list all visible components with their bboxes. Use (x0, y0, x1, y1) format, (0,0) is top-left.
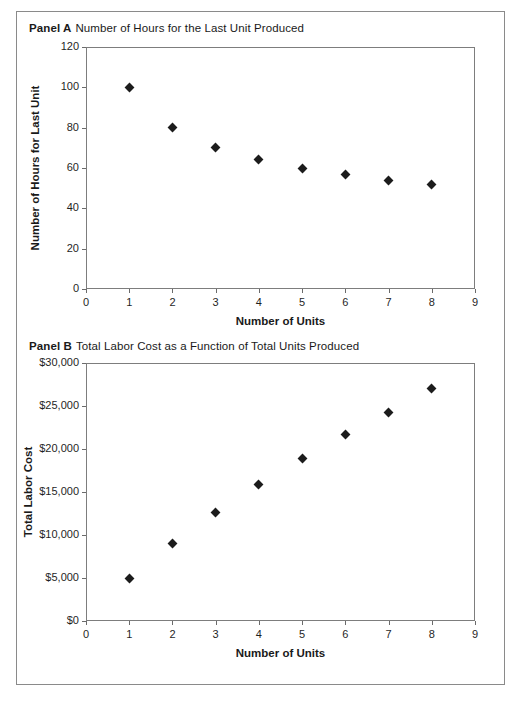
y-tick-label: 0 (73, 282, 79, 294)
x-tick-mark (302, 621, 303, 625)
panel-b-plot-area (86, 363, 475, 621)
panel-a-heading: Panel ANumber of Hours for the Last Unit… (29, 22, 304, 34)
y-tick-mark (82, 492, 86, 493)
y-tick-mark (82, 128, 86, 129)
x-tick-label: 2 (157, 628, 187, 640)
x-tick-mark (259, 289, 260, 293)
y-tick-label: 100 (61, 80, 79, 92)
x-tick-mark (389, 621, 390, 625)
panel-a-x-axis-title: Number of Units (86, 315, 475, 327)
y-tick-label: $0 (67, 614, 79, 626)
y-tick-label: 80 (67, 121, 79, 133)
panel-b-x-axis-title: Number of Units (86, 647, 475, 659)
x-tick-label: 7 (374, 628, 404, 640)
y-tick-mark (82, 363, 86, 364)
x-tick-label: 4 (244, 296, 274, 308)
x-tick-mark (389, 289, 390, 293)
x-tick-label: 0 (71, 296, 101, 308)
x-tick-mark (172, 289, 173, 293)
x-tick-mark (86, 289, 87, 293)
y-tick-label: $15,000 (39, 485, 79, 497)
y-tick-label: $20,000 (39, 442, 79, 454)
x-tick-label: 3 (201, 296, 231, 308)
panel-b-label: Panel B (29, 340, 72, 352)
panel-b-y-axis-title: Total Labor Cost (22, 363, 34, 621)
x-tick-label: 5 (287, 296, 317, 308)
x-tick-label: 8 (417, 296, 447, 308)
y-tick-mark (82, 406, 86, 407)
x-tick-label: 7 (374, 296, 404, 308)
y-tick-mark (82, 249, 86, 250)
x-tick-mark (432, 621, 433, 625)
y-tick-label: 60 (67, 161, 79, 173)
panel-a-plot-area (86, 47, 475, 289)
x-tick-label: 9 (460, 628, 490, 640)
x-tick-mark (475, 621, 476, 625)
x-tick-label: 4 (244, 628, 274, 640)
panel-b-heading: Panel BTotal Labor Cost as a Function of… (29, 340, 359, 352)
x-tick-label: 5 (287, 628, 317, 640)
panel-a-description: Number of Hours for the Last Unit Produc… (75, 22, 304, 34)
x-tick-mark (129, 289, 130, 293)
y-tick-label: $5,000 (45, 571, 79, 583)
x-tick-label: 3 (201, 628, 231, 640)
y-tick-label: $25,000 (39, 399, 79, 411)
x-tick-label: 6 (330, 628, 360, 640)
y-tick-mark (82, 535, 86, 536)
y-tick-mark (82, 168, 86, 169)
x-tick-label: 8 (417, 628, 447, 640)
x-tick-label: 1 (114, 628, 144, 640)
x-tick-mark (345, 621, 346, 625)
x-tick-mark (86, 621, 87, 625)
x-tick-label: 6 (330, 296, 360, 308)
y-tick-mark (82, 87, 86, 88)
y-tick-mark (82, 208, 86, 209)
y-tick-label: $10,000 (39, 528, 79, 540)
x-tick-label: 1 (114, 296, 144, 308)
x-tick-mark (432, 289, 433, 293)
panel-a-y-axis-title: Number of Hours for Last Unit (29, 47, 41, 289)
x-tick-mark (475, 289, 476, 293)
y-tick-mark (82, 578, 86, 579)
x-tick-mark (345, 289, 346, 293)
x-tick-mark (216, 621, 217, 625)
y-tick-label: 120 (61, 40, 79, 52)
y-tick-mark (82, 47, 86, 48)
y-tick-mark (82, 449, 86, 450)
x-tick-mark (216, 289, 217, 293)
y-tick-label: 20 (67, 242, 79, 254)
x-tick-label: 2 (157, 296, 187, 308)
x-tick-mark (129, 621, 130, 625)
y-tick-label: 40 (67, 201, 79, 213)
y-tick-label: $30,000 (39, 356, 79, 368)
x-tick-label: 9 (460, 296, 490, 308)
panel-b-description: Total Labor Cost as a Function of Total … (76, 340, 359, 352)
x-tick-mark (302, 289, 303, 293)
figure-frame: Panel ANumber of Hours for the Last Unit… (16, 11, 505, 685)
x-tick-label: 0 (71, 628, 101, 640)
x-tick-mark (172, 621, 173, 625)
x-tick-mark (259, 621, 260, 625)
panel-a-label: Panel A (29, 22, 71, 34)
